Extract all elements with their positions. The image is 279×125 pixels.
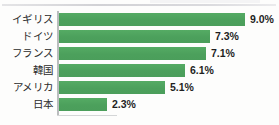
- bar: [59, 30, 210, 43]
- axis-baseline-tick: [57, 115, 117, 116]
- table-row: 韓国 6.1%: [0, 62, 279, 78]
- table-row: フランス 7.1%: [0, 45, 279, 61]
- value-label: 7.1%: [211, 48, 235, 59]
- bar: [59, 13, 245, 26]
- value-label: 6.1%: [190, 65, 214, 76]
- bar-track: 7.3%: [59, 28, 279, 44]
- bar-fill: [59, 30, 210, 43]
- table-row: ドイツ 7.3%: [0, 28, 279, 44]
- value-label: 2.3%: [112, 99, 136, 110]
- bar-track: 6.1%: [59, 62, 279, 78]
- category-label: アメリカ: [0, 82, 57, 93]
- bar-track: 5.1%: [59, 79, 279, 95]
- bar-fill: [59, 47, 206, 60]
- table-row: 日本 2.3%: [0, 96, 279, 112]
- plot-area: イギリス 9.0% ドイツ 7.3% フランス: [0, 11, 279, 119]
- bar-rows: イギリス 9.0% ドイツ 7.3% フランス: [0, 11, 279, 113]
- category-label: 日本: [0, 99, 57, 110]
- bar: [59, 81, 165, 94]
- bar-fill: [59, 64, 185, 77]
- category-label: ドイツ: [0, 31, 57, 42]
- value-label: 7.3%: [215, 31, 239, 42]
- top-divider-rule: [2, 4, 276, 6]
- value-label: 5.1%: [170, 82, 194, 93]
- bar-fill: [59, 13, 245, 26]
- category-label: 韓国: [0, 65, 57, 76]
- bar: [59, 98, 107, 111]
- bar-fill: [59, 98, 107, 111]
- bar-track: 7.1%: [59, 45, 279, 61]
- table-row: イギリス 9.0%: [0, 11, 279, 27]
- category-label: イギリス: [0, 14, 57, 25]
- bar-track: 9.0%: [59, 11, 279, 27]
- category-label: フランス: [0, 48, 57, 59]
- table-row: アメリカ 5.1%: [0, 79, 279, 95]
- bar: [59, 47, 206, 60]
- bar-fill: [59, 81, 165, 94]
- page-top-artifact: [150, 0, 260, 3]
- bar: [59, 64, 185, 77]
- horizontal-bar-chart: イギリス 9.0% ドイツ 7.3% フランス: [0, 0, 279, 125]
- bar-track: 2.3%: [59, 96, 279, 112]
- value-label: 9.0%: [250, 14, 274, 25]
